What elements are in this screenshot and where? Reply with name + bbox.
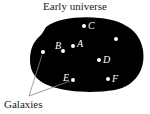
galaxies-caption: Galaxies xyxy=(4,98,42,110)
universe-diagram xyxy=(0,0,150,114)
label-b: B xyxy=(55,40,61,51)
label-f: F xyxy=(112,73,118,84)
galaxy-dot-d xyxy=(97,58,101,62)
galaxy-dot-unlabeled-2 xyxy=(41,50,45,54)
label-a: A xyxy=(77,38,83,49)
early-universe-blob xyxy=(30,17,143,92)
galaxy-dot-e xyxy=(71,78,75,82)
galaxy-dot-f xyxy=(106,77,110,81)
galaxy-dot-unlabeled-1 xyxy=(114,37,118,41)
label-d: D xyxy=(103,54,110,65)
galaxy-dot-a xyxy=(71,44,75,48)
label-c: C xyxy=(88,20,95,31)
galaxy-dot-c xyxy=(82,24,86,28)
galaxy-dot-b xyxy=(61,49,65,53)
label-e: E xyxy=(63,72,69,83)
